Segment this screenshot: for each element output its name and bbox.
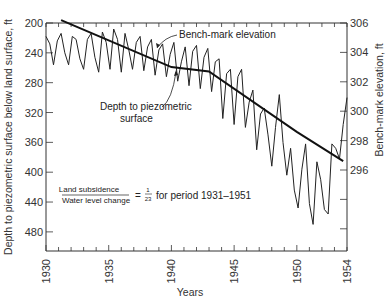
y-tick-label: 320 [25,107,43,119]
y2-tick-label: 300 [350,105,368,117]
x-tick-label: 1954 [341,259,353,283]
depth-label-line1: Depth to piezometric [100,101,192,112]
y2-tick-label: 304 [350,46,368,58]
y-tick-label: 400 [25,166,43,178]
top-axis-ticks [46,23,347,27]
svg-text:Water level change: Water level change [62,196,131,205]
y2-tick-label: 296 [350,164,368,176]
bench-mark-elevation-line [61,20,343,161]
y2-tick-label: 306 [350,17,368,29]
left-axis-ticks: 200240280320360400440480 [25,17,53,238]
y-axis-title: Depth to piezometric surface below land … [2,19,14,255]
svg-text:=: = [135,190,141,201]
bench-mark-label: Bench-mark elevation [179,29,276,40]
x-axis-title: Years [177,286,203,298]
ratio-annotation: Land subsidence Water level change = 1 2… [59,185,252,205]
depth-arrow-icon [174,70,178,76]
y-tick-label: 240 [25,47,43,59]
svg-text:Land subsidence: Land subsidence [59,185,120,194]
y-tick-label: 440 [25,196,43,208]
x-tick-label: 1940 [165,259,177,283]
depth-label-line2: surface [120,113,153,124]
svg-text:23: 23 [145,196,152,202]
x-tick-label: 1930 [40,259,52,283]
x-tick-label: 1935 [103,259,115,283]
y-tick-label: 480 [25,226,43,238]
right-axis-ticks: 306304302300298296 [340,17,368,229]
y-tick-label: 200 [25,17,43,29]
subsidence-chart: 193019351940194519501954 200240280320360… [0,0,391,303]
svg-text:1: 1 [146,187,150,193]
x-tick-label: 1945 [228,259,240,283]
y-tick-label: 360 [25,136,43,148]
y2-tick-label: 302 [350,76,368,88]
y2-axis-title: Bench-mark elevation, ft [373,43,385,156]
plot-frame [46,23,347,251]
y2-tick-label: 298 [350,135,368,147]
svg-text:for period 1931–1951: for period 1931–1951 [156,190,252,201]
y-tick-label: 280 [25,77,43,89]
x-tick-label: 1950 [291,259,303,283]
